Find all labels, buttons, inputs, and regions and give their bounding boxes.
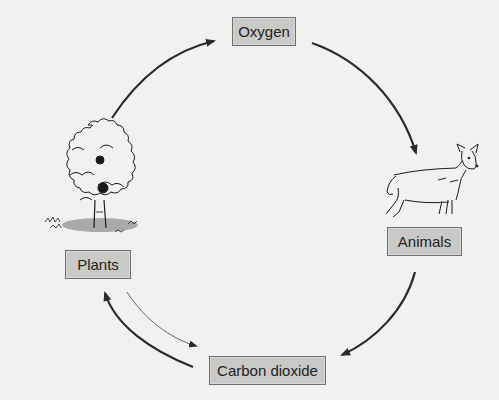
tree-icon [45, 119, 138, 232]
cycle-diagram: Oxygen Animals Carbon dioxide Plants [0, 0, 499, 400]
oxygen-node-label: Oxygen [232, 17, 296, 46]
carbon-dioxide-node-label: Carbon dioxide [209, 356, 326, 385]
arrow-plants-to-co2 [127, 292, 196, 346]
arrow-co2-to-plants [105, 293, 193, 367]
arrow-plants-to-oxygen [112, 41, 214, 118]
animals-node-label: Animals [387, 227, 462, 256]
diagram-arrows-layer [0, 0, 499, 400]
arrow-animals-to-co2 [342, 272, 415, 355]
deer-icon [386, 144, 478, 217]
plants-node-label: Plants [65, 250, 131, 279]
arrow-oxygen-to-animals [312, 43, 416, 153]
